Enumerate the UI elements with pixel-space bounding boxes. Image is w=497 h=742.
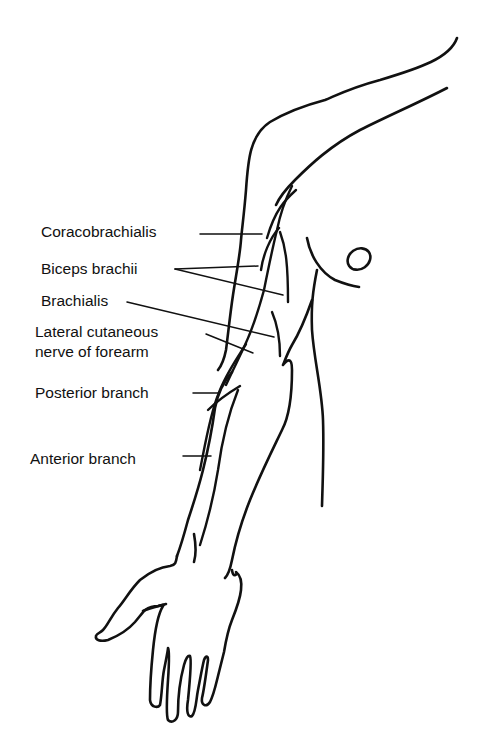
label-coracobrachialis: Coracobrachialis (41, 222, 156, 241)
biceps-trunk (226, 186, 292, 385)
label-brachialis: Brachialis (41, 291, 108, 310)
forearm-right-outline (225, 300, 312, 578)
shoulder-inner-outline (276, 88, 447, 205)
label-anterior-branch: Anterior branch (30, 449, 136, 468)
brachialis-muscle (272, 312, 280, 356)
arm-line-art (0, 0, 497, 742)
wrist-crease (194, 534, 196, 562)
leader-biceps-1 (175, 266, 258, 269)
torso-side-line (312, 270, 324, 506)
biceps-branch-right (280, 232, 288, 302)
label-posterior-branch: Posterior branch (35, 383, 149, 402)
label-lateral-cutaneous-line2: nerve of forearm (35, 342, 149, 361)
hand-outline (96, 556, 241, 722)
arm-anatomy-diagram: Coracobrachialis Biceps brachii Brachial… (0, 0, 497, 742)
label-biceps-brachii: Biceps brachii (41, 259, 138, 278)
nipple (343, 244, 374, 274)
label-lateral-cutaneous-line1: Lateral cutaneous (35, 322, 158, 341)
anterior-branch-nerve (200, 390, 238, 545)
